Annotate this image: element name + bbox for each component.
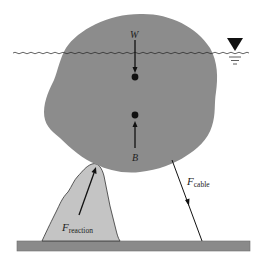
center-of-buoyancy-dot (132, 112, 139, 119)
buoyancy-label: B (132, 152, 138, 163)
cable-force-vector: Fcable (172, 160, 210, 241)
center-of-gravity-dot (132, 74, 139, 81)
inverted-triangle-water-level-icon (227, 38, 243, 64)
cable-force-label: Fcable (186, 175, 210, 189)
ground-bar (17, 241, 250, 251)
free-body-diagram: W B Freaction Fcable (0, 0, 263, 264)
